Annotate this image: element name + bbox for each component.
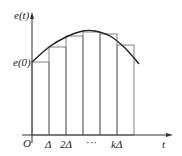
y-intercept-label: e(0)	[13, 57, 31, 68]
x-axis-label: t	[162, 139, 165, 150]
step-rectangle	[32, 62, 49, 135]
x-tick-label-ellipsis: ···	[86, 137, 97, 148]
function-curve	[32, 30, 139, 64]
step-rectangle	[83, 32, 100, 135]
step-rectangle	[117, 45, 134, 135]
x-axis-arrow-icon	[166, 133, 173, 137]
y-axis-arrow-icon	[30, 12, 34, 19]
y-axis-label: e(t)	[14, 10, 29, 21]
step-rectangle	[49, 47, 66, 135]
origin-label: O	[23, 138, 31, 149]
x-tick-label-2delta: 2Δ	[60, 139, 72, 150]
diagram-canvas	[0, 0, 182, 156]
step-rectangle	[100, 34, 117, 135]
step-approximation-diagram: e(t) e(0) O Δ 2Δ ··· kΔ t	[0, 0, 182, 156]
step-rectangle	[66, 36, 83, 135]
x-tick-label-kdelta: kΔ	[111, 139, 122, 150]
x-tick-label-delta: Δ	[45, 139, 51, 150]
